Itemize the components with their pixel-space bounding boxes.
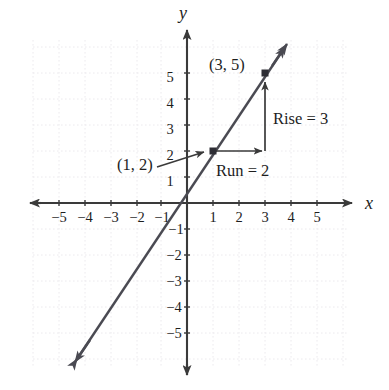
x-tick-label: 2 — [235, 209, 242, 225]
coordinate-plane-figure: −5 −4 −3 −2 −1 1 2 3 4 5 5 4 3 2 1 −1 −2… — [0, 0, 389, 390]
x-tick-label: 1 — [209, 209, 216, 225]
x-tick-label: −2 — [129, 209, 144, 225]
run-label: Run = 2 — [216, 161, 269, 180]
point-label-leader — [157, 152, 204, 167]
point-label-3-5: (3, 5) — [209, 55, 245, 74]
point-marker-3-5 — [262, 70, 269, 77]
x-tick-label: −4 — [77, 209, 93, 225]
point-marker-1-2 — [210, 148, 217, 155]
y-tick-label: −5 — [166, 325, 181, 341]
x-tick-label: 4 — [287, 209, 295, 225]
point-label-1-2: (1, 2) — [117, 155, 153, 174]
y-tick-label: 2 — [166, 147, 173, 163]
y-tick-label: 4 — [166, 95, 174, 111]
y-tick-label: 3 — [166, 121, 173, 137]
y-tick-label: 1 — [166, 173, 173, 189]
x-tick-label: −5 — [51, 209, 66, 225]
axes — [30, 30, 352, 375]
x-tick-label: −3 — [103, 209, 118, 225]
graph-canvas: −5 −4 −3 −2 −1 1 2 3 4 5 5 4 3 2 1 −1 −2… — [0, 0, 389, 390]
y-tick-label: −3 — [166, 273, 181, 289]
y-tick-label: −2 — [166, 247, 181, 263]
y-tick-label: −1 — [168, 221, 183, 237]
x-tick-label: 5 — [313, 209, 320, 225]
rise-label: Rise = 3 — [273, 109, 328, 128]
y-axis-label: y — [177, 3, 187, 23]
y-tick-label: −4 — [166, 299, 182, 315]
x-tick-label: 3 — [261, 209, 268, 225]
y-tick-label: 5 — [166, 69, 173, 85]
x-axis-label: x — [364, 193, 373, 213]
